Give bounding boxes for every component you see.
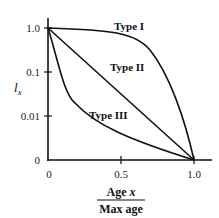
x-tick-05: 0.5 (114, 168, 128, 180)
x-axis-label-numerator: Age x (107, 185, 136, 199)
label-type-1: Type I (114, 20, 144, 32)
x-axis-label-denominator: Max age (99, 202, 143, 216)
y-tick-0: 0 (35, 154, 41, 166)
label-type-2: Type II (110, 61, 144, 73)
x-tick-0: 0 (46, 168, 52, 180)
label-type-3: Type III (89, 109, 128, 121)
y-tick-1: 1.0 (26, 22, 40, 34)
survivorship-chart: 1.0 0.1 0.01 0 0 0.5 1.0 lx Age x Max ag… (0, 0, 219, 218)
curve-type-2 (48, 28, 194, 160)
x-tick-1: 1.0 (187, 168, 201, 180)
y-tick-01: 0.1 (26, 66, 40, 78)
y-axis-label: lx (14, 80, 22, 97)
y-tick-001: 0.01 (21, 110, 40, 122)
